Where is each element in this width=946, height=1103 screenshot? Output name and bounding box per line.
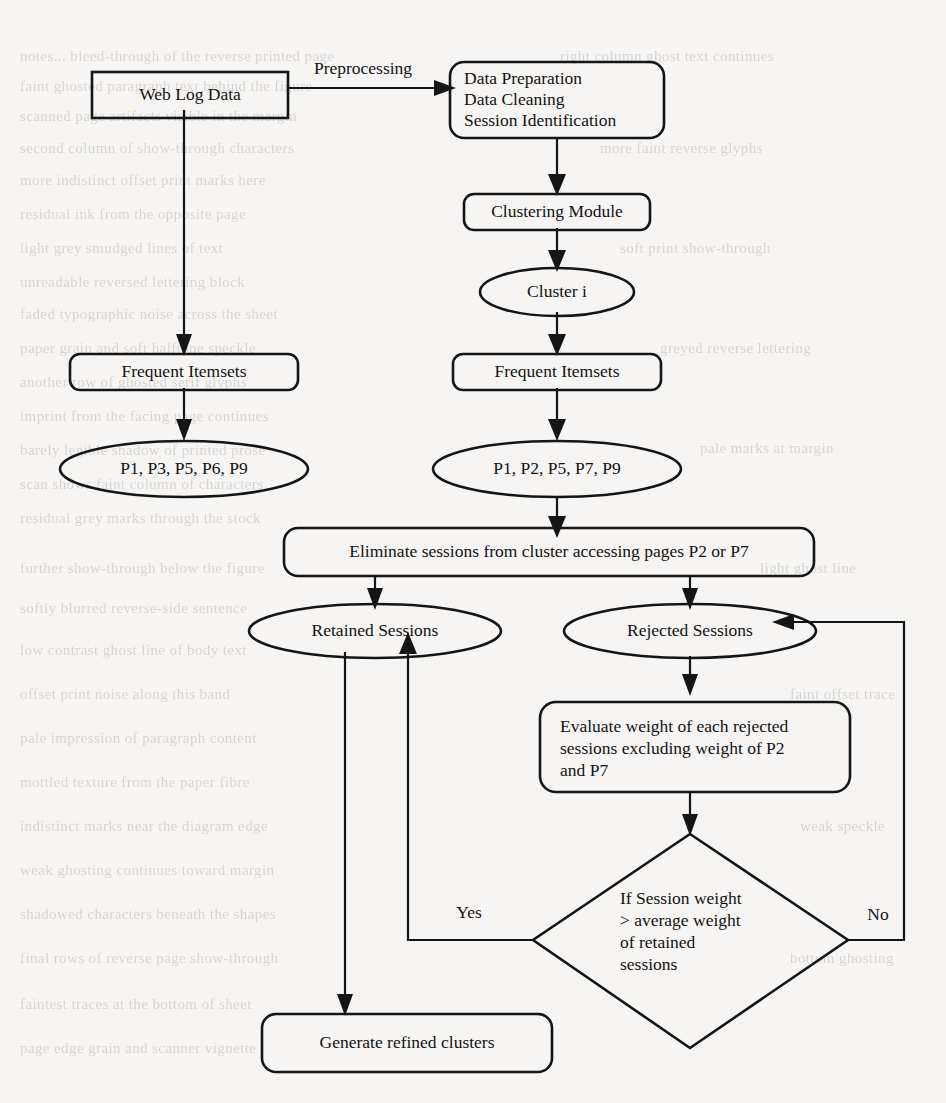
edge-decision-yes-to-retained — [399, 632, 533, 940]
node-frequent-itemsets-left[interactable]: Frequent Itemsets — [70, 354, 298, 390]
scanned-page: notes... bleed-through of the reverse pr… — [0, 0, 946, 1103]
node-itemset-left-label: P1, P3, P5, P6, P9 — [120, 458, 248, 478]
node-rejected-sessions-label: Rejected Sessions — [627, 620, 753, 640]
node-cluster-i[interactable]: Cluster i — [480, 268, 634, 316]
edge-weblog-to-frequent-left — [176, 110, 192, 356]
node-decision-line3: of retained — [620, 932, 696, 952]
node-evaluate-weight-line2: sessions excluding weight of P2 — [560, 738, 785, 758]
node-decision-session-weight[interactable]: If Session weight > average weight of re… — [533, 834, 848, 1048]
node-frequent-itemsets-left-label: Frequent Itemsets — [122, 361, 247, 381]
edge-cluster-to-frequent-right — [548, 312, 566, 356]
flowchart-diagram: Web Log Data Preprocessing Data Preparat… — [0, 0, 946, 1103]
node-retained-sessions-label: Retained Sessions — [312, 620, 439, 640]
node-clustering-module-label: Clustering Module — [491, 201, 623, 221]
node-retained-sessions[interactable]: Retained Sessions — [249, 604, 501, 658]
node-preprocessing-line2: Data Cleaning — [464, 89, 565, 109]
node-eliminate-sessions[interactable]: Eliminate sessions from cluster accessin… — [284, 528, 814, 576]
node-frequent-itemsets-right[interactable]: Frequent Itemsets — [453, 354, 661, 390]
edge-frequent-right-to-itemset-right — [548, 388, 566, 441]
node-frequent-itemsets-right-label: Frequent Itemsets — [495, 361, 620, 381]
edge-label-no: No — [867, 904, 889, 924]
node-generate-refined-clusters[interactable]: Generate refined clusters — [262, 1014, 552, 1072]
edge-frequent-left-to-itemset-left — [176, 388, 192, 441]
node-preprocessing-box[interactable]: Data Preparation Data Cleaning Session I… — [450, 62, 664, 138]
node-decision-line1: If Session weight — [620, 888, 742, 908]
edge-clustering-to-cluster — [548, 228, 566, 272]
edge-weblog-to-preprocessing — [288, 80, 456, 96]
node-clustering-module[interactable]: Clustering Module — [464, 194, 650, 230]
node-cluster-i-label: Cluster i — [527, 281, 587, 301]
edge-evaluate-to-decision — [682, 792, 698, 836]
node-web-log-data[interactable]: Web Log Data — [92, 72, 288, 118]
node-preprocessing-line1: Data Preparation — [464, 68, 582, 88]
node-evaluate-weight-line1: Evaluate weight of each rejected — [560, 716, 789, 736]
edge-label-preprocessing: Preprocessing — [314, 58, 412, 78]
node-web-log-data-label: Web Log Data — [139, 84, 241, 104]
node-eliminate-sessions-label: Eliminate sessions from cluster accessin… — [349, 541, 749, 561]
node-decision-line4: sessions — [620, 954, 678, 974]
node-evaluate-weight[interactable]: Evaluate weight of each rejected session… — [540, 702, 850, 792]
node-rejected-sessions[interactable]: Rejected Sessions — [564, 604, 816, 658]
node-decision-line2: > average weight — [620, 910, 741, 930]
node-itemset-right-label: P1, P2, P5, P7, P9 — [493, 458, 621, 478]
edge-retained-to-generate — [337, 652, 353, 1016]
edge-label-yes: Yes — [456, 902, 482, 922]
node-generate-refined-clusters-label: Generate refined clusters — [320, 1032, 495, 1052]
edge-decision-no-to-rejected — [772, 614, 904, 940]
node-itemset-right[interactable]: P1, P2, P5, P7, P9 — [433, 441, 681, 497]
edge-rejected-to-evaluate — [682, 656, 698, 696]
node-preprocessing-line3: Session Identification — [464, 110, 616, 130]
edge-itemset-right-to-eliminate — [548, 497, 566, 538]
node-evaluate-weight-line3: and P7 — [560, 760, 608, 780]
node-itemset-left[interactable]: P1, P3, P5, P6, P9 — [60, 441, 308, 497]
edge-preprocessing-to-clustering — [548, 138, 566, 196]
